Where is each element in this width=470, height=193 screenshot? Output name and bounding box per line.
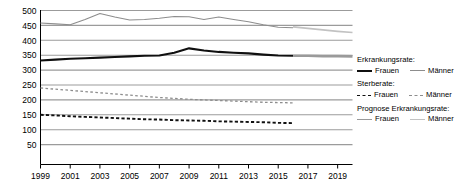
forecast-line (293, 27, 352, 33)
legend-swatch-icon (357, 95, 371, 96)
legend-swatch-icon (357, 119, 372, 120)
y-tick-label: 450 (22, 21, 36, 31)
legend-group: Erkrankungsrate:FrauenMänner (357, 56, 470, 75)
y-tick-label: 500 (22, 6, 36, 16)
legend-entry-männer[interactable]: Männer (410, 67, 454, 75)
x-tick-label: 1999 (31, 171, 50, 181)
legend-group: Sterberate:FrauenMänner (357, 80, 470, 99)
y-tick-label: 50 (27, 140, 37, 150)
x-tick-label: 2011 (210, 171, 229, 181)
legend-group: Prognose Erkrankungsrate:FrauenMänner (357, 105, 470, 124)
legend-group-title: Erkrankungsrate: (357, 56, 470, 64)
legend-swatch-icon (410, 119, 425, 120)
y-tick-label: 400 (22, 36, 36, 46)
x-tick-label: 2017 (298, 171, 317, 181)
x-tick-label: 2009 (180, 171, 199, 181)
y-tick-label: 350 (22, 50, 36, 60)
legend-label: Frauen (375, 67, 399, 75)
x-tick-label: 2003 (90, 171, 109, 181)
x-tick-label: 2005 (120, 171, 139, 181)
legend-label: Männer (426, 91, 452, 99)
legend-row: FrauenMänner (357, 91, 470, 99)
data-series (41, 13, 294, 123)
series-line (41, 115, 294, 123)
y-tick-label: 100 (22, 125, 36, 135)
x-tick-label: 2013 (239, 171, 258, 181)
series-line (41, 88, 294, 103)
chart-container: 50100150200250300350400450500 1999200120… (0, 0, 470, 193)
legend-label: Frauen (375, 115, 399, 123)
x-tick-label: 2015 (269, 171, 288, 181)
y-tick-label: 250 (22, 80, 36, 90)
legend-row: FrauenMänner (357, 67, 470, 75)
x-axis (41, 165, 353, 169)
legend-label: Männer (428, 67, 454, 75)
legend-swatch-icon (409, 95, 423, 96)
y-tick-label: 200 (22, 95, 36, 105)
gridlines (41, 11, 353, 145)
legend-row: FrauenMänner (357, 115, 470, 123)
forecast-series (293, 27, 352, 57)
legend-entry-frauen[interactable]: Frauen (357, 115, 399, 123)
legend-entry-männer[interactable]: Männer (410, 115, 454, 123)
legend-label: Frauen (374, 91, 398, 99)
legend-entry-frauen[interactable]: Frauen (357, 67, 399, 75)
x-tick-label: 2007 (150, 171, 169, 181)
legend-entry-frauen[interactable]: Frauen (357, 91, 398, 99)
legend-swatch-icon (410, 70, 425, 71)
x-tick-labels: 1999200120032005200720092011201320152017… (31, 171, 347, 181)
legend-swatch-icon (357, 70, 372, 72)
legend-group-title: Sterberate: (357, 80, 470, 88)
y-tick-label: 300 (22, 65, 36, 75)
legend-group-title: Prognose Erkrankungsrate: (357, 105, 470, 113)
x-tick-label: 2019 (328, 171, 347, 181)
y-tick-labels: 50100150200250300350400450500 (22, 6, 36, 150)
y-tick-label: 150 (22, 110, 36, 120)
chart-legend: Erkrankungsrate:FrauenMännerSterberate:F… (357, 56, 470, 129)
series-line (41, 48, 294, 60)
legend-entry-männer[interactable]: Männer (409, 91, 452, 99)
x-tick-label: 2001 (61, 171, 80, 181)
forecast-line (293, 56, 352, 57)
legend-label: Männer (428, 115, 454, 123)
